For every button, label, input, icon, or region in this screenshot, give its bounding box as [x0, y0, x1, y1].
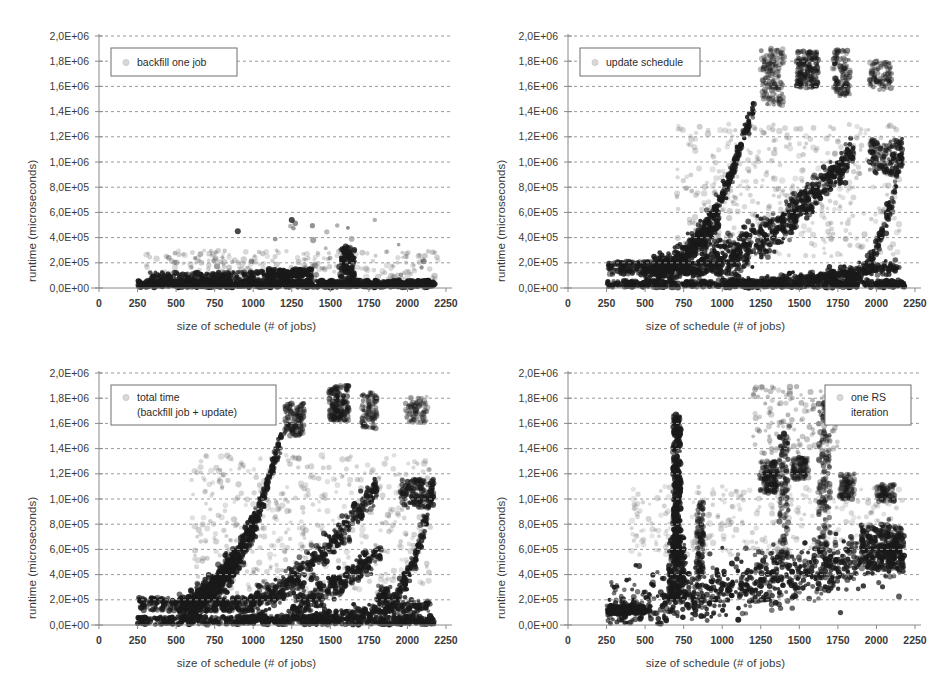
svg-text:750: 750 [206, 634, 224, 646]
svg-text:1000: 1000 [242, 634, 266, 646]
svg-text:250: 250 [129, 634, 147, 646]
svg-text:1750: 1750 [357, 634, 381, 646]
svg-text:2,0E+05: 2,0E+05 [50, 256, 90, 268]
svg-text:2,0E+05: 2,0E+05 [50, 593, 90, 605]
svg-text:1000: 1000 [242, 297, 266, 309]
svg-text:0,0E+00: 0,0E+00 [50, 282, 90, 294]
y-axis-label: runtime (microseconds) [495, 497, 507, 619]
svg-text:250: 250 [129, 297, 147, 309]
svg-text:1,4E+06: 1,4E+06 [519, 105, 559, 117]
legend: total time(backfill job + update) [111, 385, 276, 425]
svg-text:2,0E+06: 2,0E+06 [50, 30, 90, 42]
svg-text:1,4E+06: 1,4E+06 [50, 105, 90, 117]
svg-text:2,0E+06: 2,0E+06 [519, 30, 559, 42]
svg-text:1500: 1500 [319, 634, 343, 646]
svg-text:1500: 1500 [788, 297, 812, 309]
svg-text:0,0E+00: 0,0E+00 [50, 619, 90, 631]
svg-text:1750: 1750 [826, 634, 850, 646]
svg-text:2250: 2250 [434, 297, 458, 309]
svg-text:2000: 2000 [396, 634, 420, 646]
svg-text:total time: total time [137, 391, 180, 403]
y-axis-ticks: 0,0E+002,0E+054,0E+056,0E+058,0E+051,0E+… [519, 367, 572, 631]
x-axis-ticks: 0250500750100012501500175020002250 [565, 288, 927, 309]
x-axis-ticks: 0250500750100012501500175020002250 [96, 288, 458, 309]
svg-text:0,0E+00: 0,0E+00 [519, 282, 559, 294]
svg-text:750: 750 [675, 297, 693, 309]
svg-text:0: 0 [565, 297, 571, 309]
svg-text:8,0E+05: 8,0E+05 [50, 518, 90, 530]
svg-text:(backfill job + update): (backfill job + update) [137, 406, 237, 418]
svg-text:500: 500 [636, 297, 654, 309]
svg-text:250: 250 [598, 634, 616, 646]
svg-text:2000: 2000 [396, 297, 420, 309]
svg-text:0: 0 [96, 634, 102, 646]
svg-text:1000: 1000 [711, 634, 735, 646]
svg-text:1,0E+06: 1,0E+06 [519, 493, 559, 505]
svg-text:250: 250 [598, 297, 616, 309]
svg-text:1,2E+06: 1,2E+06 [519, 467, 559, 479]
svg-text:1250: 1250 [280, 634, 304, 646]
svg-text:1750: 1750 [826, 297, 850, 309]
legend: update schedule [580, 48, 700, 76]
y-axis-label: runtime (microseconds) [26, 497, 38, 619]
svg-text:1,2E+06: 1,2E+06 [50, 130, 90, 142]
svg-text:8,0E+05: 8,0E+05 [519, 518, 559, 530]
svg-text:2250: 2250 [434, 634, 458, 646]
svg-text:500: 500 [167, 297, 185, 309]
data-points [605, 46, 907, 291]
x-axis-label: size of schedule (# of jobs) [481, 320, 938, 332]
svg-text:1,6E+06: 1,6E+06 [519, 417, 559, 429]
svg-text:1,2E+06: 1,2E+06 [50, 467, 90, 479]
scatter-panel-grid: 0,0E+002,0E+054,0E+056,0E+058,0E+051,0E+… [0, 0, 938, 674]
svg-text:1,6E+06: 1,6E+06 [50, 80, 90, 92]
svg-text:iteration: iteration [851, 406, 889, 418]
svg-text:6,0E+05: 6,0E+05 [519, 206, 559, 218]
svg-text:1,2E+06: 1,2E+06 [519, 130, 559, 142]
x-axis-ticks: 0250500750100012501500175020002250 [565, 625, 927, 646]
y-axis-label: runtime (microseconds) [495, 160, 507, 282]
x-axis-label: size of schedule (# of jobs) [481, 657, 938, 669]
svg-text:750: 750 [206, 297, 224, 309]
svg-text:1,6E+06: 1,6E+06 [50, 417, 90, 429]
svg-text:6,0E+05: 6,0E+05 [50, 543, 90, 555]
svg-text:2250: 2250 [903, 297, 927, 309]
svg-text:1,0E+06: 1,0E+06 [50, 493, 90, 505]
svg-text:backfill one job: backfill one job [137, 56, 207, 68]
y-axis-label: runtime (microseconds) [26, 160, 38, 282]
y-axis-ticks: 0,0E+002,0E+054,0E+056,0E+058,0E+051,0E+… [519, 30, 572, 294]
svg-text:one RS: one RS [851, 391, 886, 403]
svg-text:6,0E+05: 6,0E+05 [50, 206, 90, 218]
svg-text:2250: 2250 [903, 634, 927, 646]
y-axis-ticks: 0,0E+002,0E+054,0E+056,0E+058,0E+051,0E+… [50, 30, 103, 294]
svg-text:2,0E+05: 2,0E+05 [519, 256, 559, 268]
x-axis-label: size of schedule (# of jobs) [12, 320, 481, 332]
svg-text:2000: 2000 [865, 634, 889, 646]
svg-text:0: 0 [565, 634, 571, 646]
svg-text:2,0E+06: 2,0E+06 [519, 367, 559, 379]
chart-panel-backfill-one-job: 0,0E+002,0E+054,0E+056,0E+058,0E+051,0E+… [0, 0, 469, 337]
svg-text:1250: 1250 [280, 297, 304, 309]
svg-text:500: 500 [167, 634, 185, 646]
svg-text:update schedule: update schedule [606, 56, 683, 68]
svg-text:4,0E+05: 4,0E+05 [519, 568, 559, 580]
svg-text:1,8E+06: 1,8E+06 [50, 55, 90, 67]
chart-panel-total-time: 0,0E+002,0E+054,0E+056,0E+058,0E+051,0E+… [0, 337, 469, 674]
svg-text:1,4E+06: 1,4E+06 [50, 442, 90, 454]
svg-text:1,4E+06: 1,4E+06 [519, 442, 559, 454]
svg-text:2000: 2000 [865, 297, 889, 309]
svg-text:1,6E+06: 1,6E+06 [519, 80, 559, 92]
svg-text:4,0E+05: 4,0E+05 [50, 231, 90, 243]
svg-text:750: 750 [675, 634, 693, 646]
svg-text:500: 500 [636, 634, 654, 646]
x-axis-ticks: 0250500750100012501500175020002250 [96, 625, 458, 646]
chart-panel-update-schedule: 0,0E+002,0E+054,0E+056,0E+058,0E+051,0E+… [469, 0, 938, 337]
svg-text:4,0E+05: 4,0E+05 [519, 231, 559, 243]
svg-text:1,8E+06: 1,8E+06 [519, 55, 559, 67]
svg-text:1250: 1250 [749, 634, 773, 646]
data-points [136, 217, 441, 290]
legend: one RSiteration [825, 385, 911, 425]
svg-text:6,0E+05: 6,0E+05 [519, 543, 559, 555]
y-axis-ticks: 0,0E+002,0E+054,0E+056,0E+058,0E+051,0E+… [50, 367, 103, 631]
x-axis-label: size of schedule (# of jobs) [12, 657, 481, 669]
svg-text:1500: 1500 [319, 297, 343, 309]
